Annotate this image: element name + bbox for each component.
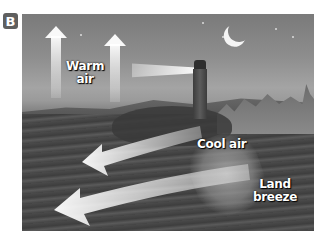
land-breeze-illustration: Warm air Cool air Land breeze xyxy=(22,14,314,231)
land-breeze-label: Land breeze xyxy=(236,178,314,203)
panel-label-badge: B xyxy=(3,13,18,29)
cool-air-label: Cool air xyxy=(197,138,246,151)
